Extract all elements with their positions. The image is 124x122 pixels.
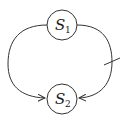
node-s2-subscript: 2 <box>65 99 71 109</box>
node-s2-label: S <box>55 90 65 108</box>
node-s2: S 2 <box>47 84 77 114</box>
node-s1: S 1 <box>47 10 77 40</box>
edge-left-s1-s2 <box>8 25 47 98</box>
node-s1-subscript: 1 <box>65 25 71 35</box>
diagram-canvas: S 1 S 2 <box>0 0 124 122</box>
node-s1-label: S <box>55 16 65 34</box>
edge-right-s1-s2 <box>77 25 112 98</box>
